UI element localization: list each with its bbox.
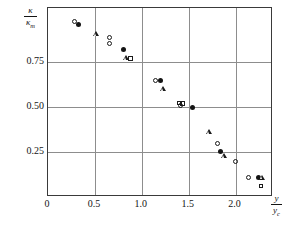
data-point-filled-circle bbox=[121, 47, 126, 52]
x-axis-tick-label: 1.0 bbox=[126, 199, 156, 209]
y-axis-tick-label: 0.50 bbox=[27, 101, 45, 111]
data-point-filled-circle bbox=[190, 105, 195, 110]
data-point-square bbox=[180, 101, 185, 106]
y-axis-tick-label: 0.75 bbox=[27, 56, 45, 66]
data-point-square bbox=[259, 184, 264, 189]
gridline-vertical bbox=[189, 8, 190, 195]
y-axis-label-numerator: κ bbox=[24, 6, 37, 17]
data-point-open-circle bbox=[107, 41, 112, 46]
data-point-open-circle bbox=[233, 159, 238, 164]
y-axis-tick-label: 0.25 bbox=[27, 146, 45, 156]
data-point-triangle bbox=[206, 129, 212, 134]
data-point-triangle bbox=[221, 153, 227, 158]
data-point-square bbox=[128, 56, 133, 61]
scatter-chart-figure: κ κm y yc 0.250.500.75 00.51.01.52.0 bbox=[0, 0, 295, 242]
x-axis-tick-label: 0 bbox=[32, 199, 62, 209]
x-axis-label-numerator: y bbox=[271, 194, 282, 205]
gridline-vertical bbox=[142, 8, 143, 195]
data-point-filled-circle bbox=[158, 78, 163, 83]
x-axis-tick-label: 0.5 bbox=[79, 199, 109, 209]
y-axis-label: κ κm bbox=[24, 6, 37, 29]
gridline-vertical bbox=[236, 8, 237, 195]
data-point-triangle bbox=[259, 175, 265, 180]
x-axis-tick-label: 2.0 bbox=[220, 199, 250, 209]
gridline-horizontal bbox=[48, 107, 271, 108]
x-axis-label: y yc bbox=[271, 194, 282, 217]
plot-area bbox=[47, 7, 272, 196]
gridline-horizontal bbox=[48, 62, 271, 63]
data-point-triangle bbox=[93, 31, 99, 36]
x-axis-label-denominator: yc bbox=[271, 205, 282, 217]
data-point-open-circle bbox=[107, 35, 112, 40]
x-axis-tick-label: 1.5 bbox=[173, 199, 203, 209]
y-axis-label-denominator: κm bbox=[24, 17, 37, 29]
gridline-horizontal bbox=[48, 152, 271, 153]
data-point-triangle bbox=[160, 86, 166, 91]
data-point-filled-circle bbox=[76, 22, 81, 27]
data-point-open-circle bbox=[215, 141, 220, 146]
data-point-open-circle bbox=[246, 175, 251, 180]
